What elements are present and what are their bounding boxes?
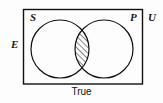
- set-label-S: S: [30, 12, 36, 23]
- set-label-P: P: [130, 12, 137, 23]
- figure-caption: True: [0, 87, 163, 97]
- outside-label-E: E: [11, 39, 18, 50]
- universe-label-U: U: [148, 12, 156, 23]
- venn-diagram-figure: S P U E True: [0, 0, 163, 103]
